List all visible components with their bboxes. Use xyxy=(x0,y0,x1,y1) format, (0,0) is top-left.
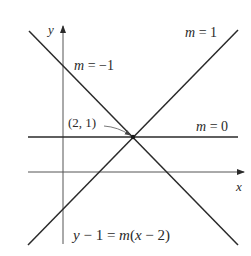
x-axis-label: x xyxy=(235,179,242,194)
equation-label: y − 1 = m(x − 2) xyxy=(71,227,170,244)
slope-label-neg1: m = −1 xyxy=(74,58,114,73)
slope-label-pos1-rest: = 1 xyxy=(195,25,217,40)
diagram-canvas: y x m = 1 m = −1 m = 0 (2, 1) y − 1 = m(… xyxy=(0,0,251,256)
slope-label-0: m = 0 xyxy=(196,119,228,134)
y-axis-label: y xyxy=(46,22,54,37)
slope-label-neg1-rest: = −1 xyxy=(84,58,114,73)
slope-label-0-rest: = 0 xyxy=(206,119,228,134)
slope-label-pos1: m = 1 xyxy=(185,25,217,40)
point-label: (2, 1) xyxy=(68,115,96,130)
intersection-point xyxy=(131,135,135,139)
